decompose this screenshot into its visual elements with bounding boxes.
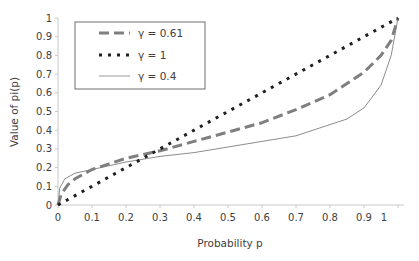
chart: 00.10.20.30.40.50.60.70.80.91 00.10.20.3… bbox=[0, 0, 419, 261]
legend-label-gamma-1: γ = 1 bbox=[138, 49, 166, 61]
y-axis: 00.10.20.30.40.50.60.70.80.91 bbox=[36, 13, 58, 211]
x-tick-label: 0.8 bbox=[322, 212, 338, 223]
y-tick-label: 0.6 bbox=[36, 87, 52, 98]
x-tick-label: 0.9 bbox=[356, 212, 372, 223]
x-tick-label: 0.7 bbox=[288, 212, 304, 223]
y-tick-label: 0 bbox=[46, 200, 52, 211]
y-tick-label: 0.1 bbox=[36, 181, 52, 192]
y-tick-label: 0.4 bbox=[36, 125, 52, 136]
y-tick-label: 0.8 bbox=[36, 50, 52, 61]
x-tick-label: 0.5 bbox=[220, 212, 236, 223]
y-tick-label: 0.5 bbox=[36, 106, 52, 117]
y-axis-title: Value of pi(p) bbox=[8, 77, 20, 147]
y-tick-label: 0.7 bbox=[36, 69, 52, 80]
x-tick-label: 0.3 bbox=[152, 212, 168, 223]
x-tick-label: 0.1 bbox=[84, 212, 100, 223]
x-tick-label: 0.2 bbox=[118, 212, 134, 223]
y-tick-label: 0.2 bbox=[36, 162, 52, 173]
legend-label-gamma-04: γ = 0.4 bbox=[138, 70, 177, 82]
x-axis-title: Probability p bbox=[197, 237, 263, 249]
x-tick-label: 1 bbox=[381, 212, 387, 223]
x-tick-label: 0.6 bbox=[254, 212, 270, 223]
y-tick-label: 1 bbox=[46, 13, 52, 24]
x-tick-label: 0.4 bbox=[186, 212, 202, 223]
y-tick-label: 0.9 bbox=[36, 31, 52, 42]
x-tick-label: 0 bbox=[55, 212, 61, 223]
y-tick-label: 0.3 bbox=[36, 143, 52, 154]
legend-label-gamma-061: γ = 0.61 bbox=[138, 27, 183, 39]
x-axis: 00.10.20.30.40.50.60.70.80.91 bbox=[55, 205, 404, 223]
legend: γ = 0.61 γ = 1 γ = 0.4 bbox=[75, 22, 205, 89]
